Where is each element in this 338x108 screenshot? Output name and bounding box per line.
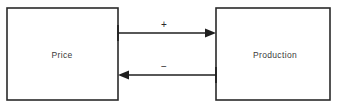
causal-loop-diagram: Price Production + − bbox=[0, 0, 338, 108]
link-sign-positive: + bbox=[161, 20, 167, 30]
node-label-production: Production bbox=[253, 50, 297, 60]
node-label-price: Price bbox=[51, 50, 72, 60]
link-sign-negative: − bbox=[161, 62, 167, 72]
arrowhead-right-icon bbox=[205, 29, 216, 38]
arrowhead-left-icon bbox=[118, 71, 129, 80]
